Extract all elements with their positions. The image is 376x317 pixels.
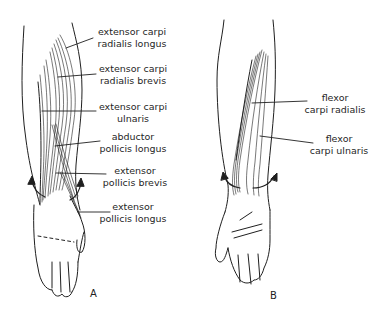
label-line: pollicis brevis <box>100 177 170 189</box>
label-extensor-carpi-radialis-brevis: extensor carpi radialis brevis <box>98 63 168 87</box>
rotation-arrows-b <box>224 175 274 188</box>
label-line: carpi radialis <box>300 104 370 116</box>
label-line: extensor <box>100 165 170 177</box>
panel-label-b: B <box>270 290 277 301</box>
muscles-a <box>38 35 81 218</box>
forearm-b <box>215 20 275 284</box>
label-extensor-pollicis-brevis: extensor pollicis brevis <box>100 165 170 189</box>
label-line: extensor carpi <box>98 101 168 113</box>
label-extensor-pollicis-longus: extensor pollicis longus <box>98 201 168 225</box>
label-line: radialis longus <box>97 38 167 50</box>
label-extensor-carpi-radialis-longus: extensor carpi radialis longus <box>97 26 167 50</box>
label-flexor-carpi-ulnaris: flexor carpi ulnaris <box>304 133 374 157</box>
muscles-b <box>233 50 269 196</box>
label-extensor-carpi-ulnaris: extensor carpi ulnaris <box>98 101 168 125</box>
label-line: flexor <box>304 133 374 145</box>
panel-label-a: A <box>90 288 97 299</box>
label-line: ulnaris <box>98 113 168 125</box>
label-line: abductor <box>98 131 168 143</box>
label-line: carpi ulnaris <box>304 145 374 157</box>
label-line: pollicis longus <box>98 143 168 155</box>
label-line: pollicis longus <box>98 213 168 225</box>
label-abductor-pollicis-longus: abductor pollicis longus <box>98 131 168 155</box>
label-line: extensor carpi <box>98 63 168 75</box>
arrow-head-icon <box>221 172 228 180</box>
label-line: extensor <box>98 201 168 213</box>
label-line: flexor <box>300 92 370 104</box>
label-line: radialis brevis <box>98 75 168 87</box>
label-line: extensor carpi <box>97 26 167 38</box>
label-flexor-carpi-radialis: flexor carpi radialis <box>300 92 370 116</box>
arrow-head-icon <box>271 173 277 181</box>
forearm-a <box>22 23 85 297</box>
anatomy-illustration <box>0 0 376 317</box>
arrow-head-icon <box>28 176 35 184</box>
arrow-head-icon <box>77 178 84 186</box>
